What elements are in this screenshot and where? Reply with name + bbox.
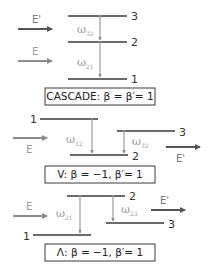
omega-32-label: ω32 (132, 135, 149, 149)
omega-21-label: ω21 (77, 56, 94, 70)
omega-32-label: ω32 (77, 23, 94, 37)
v-diagram: 1 3 2 ω12 ω32 E E' V: β = −1, β′= 1 (13, 113, 200, 183)
omega-12-label: ω12 (66, 133, 83, 147)
level-1-label: 1 (30, 113, 37, 126)
omega-21-label: ω21 (56, 207, 73, 221)
level-1-label: 1 (23, 230, 30, 243)
level-3-label: 3 (131, 10, 138, 23)
field-e-label: E (26, 201, 32, 212)
omega-23-label: ω23 (121, 203, 138, 217)
v-caption: V: β = −1, β′= 1 (57, 168, 142, 180)
level-2-label: 2 (129, 190, 136, 203)
level-1-label: 1 (131, 73, 138, 86)
lambda-caption: Λ: β = −1, β′= 1 (57, 246, 143, 258)
cascade-diagram: 3 2 1 ω32 ω21 E' E CASCADE: β = β′= 1 (18, 10, 155, 105)
field-e-label: E (26, 144, 32, 155)
lambda-diagram: 2 3 1 ω21 ω23 E E' Λ: β = −1, β′= 1 (13, 190, 185, 261)
cascade-caption: CASCADE: β = β′= 1 (46, 90, 153, 102)
field-e-prime-label: E' (176, 153, 185, 164)
level-2-label: 2 (132, 150, 139, 163)
field-e-prime-label: E' (32, 14, 41, 25)
field-e-label: E (32, 46, 38, 57)
level-3-label: 3 (179, 126, 186, 139)
level-3-label: 3 (168, 218, 175, 231)
level-2-label: 2 (131, 36, 138, 49)
energy-level-diagrams: 3 2 1 ω32 ω21 E' E CASCADE: β = β′= 1 1 … (0, 0, 211, 270)
field-e-prime-label: E' (160, 195, 169, 206)
